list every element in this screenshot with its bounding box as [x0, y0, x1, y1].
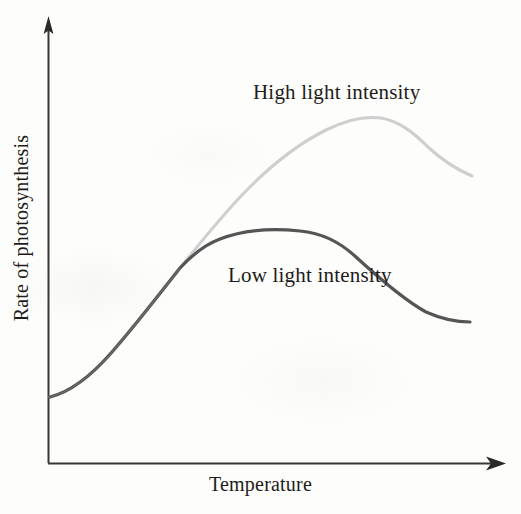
series-label-low-light: Low light intensity [228, 263, 392, 288]
shared-rise-ink-bleed [50, 268, 180, 397]
x-axis [48, 457, 506, 471]
series-curve-high-light [50, 117, 472, 397]
photosynthesis-temperature-chart: Rate of photosynthesis Temperature High … [0, 0, 521, 514]
series-curve-low-light [50, 230, 470, 397]
y-axis-label: Rate of photosynthesis [8, 108, 34, 348]
series-label-high-light: High light intensity [253, 80, 420, 105]
x-axis-label: Temperature [0, 473, 521, 496]
chart-plot-area [0, 0, 521, 514]
